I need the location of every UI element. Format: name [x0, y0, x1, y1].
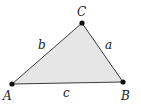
side-c-label: c — [63, 86, 70, 100]
triangle-diagram: C A B b a c — [0, 0, 141, 105]
vertex-a-label: A — [2, 89, 12, 103]
side-b-label: b — [38, 38, 46, 52]
vertex-b-dot — [120, 79, 125, 84]
triangle-shape — [12, 23, 123, 84]
vertex-b-label: B — [120, 89, 130, 103]
vertex-c-label: C — [77, 5, 86, 19]
vertex-a-dot — [9, 81, 14, 86]
side-a-label: a — [105, 38, 112, 52]
vertex-c-dot — [79, 20, 84, 25]
